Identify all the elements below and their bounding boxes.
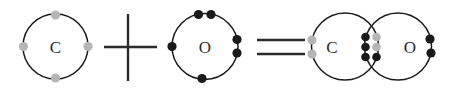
electron-dot <box>307 35 316 44</box>
electron-dot <box>83 42 92 51</box>
lewis-structure-diagram: C O <box>0 0 460 92</box>
electron-dot <box>232 35 241 44</box>
electron-dot <box>206 10 215 19</box>
product-carbon-label: C <box>326 38 337 57</box>
carbon-reactant-group: C <box>19 10 93 82</box>
electron-dot <box>307 49 316 58</box>
shared-electron-dot <box>372 43 381 52</box>
electron-dot <box>232 48 241 57</box>
electron-dot <box>425 34 434 43</box>
electron-dot <box>51 10 60 19</box>
shared-electron-dot <box>372 33 381 42</box>
shared-electron-dot <box>372 53 381 62</box>
electron-dot <box>194 10 203 19</box>
electron-dot <box>51 73 60 82</box>
plus-sign <box>104 14 157 81</box>
oxygen-reactant-group: O <box>167 10 241 83</box>
electron-dot <box>426 48 435 57</box>
carbon-reactant-label: C <box>50 38 61 57</box>
carbon-monoxide-product-group: C O <box>307 13 435 80</box>
product-oxygen-label: O <box>404 38 416 57</box>
electron-dot <box>197 74 206 83</box>
electron-dot <box>167 42 176 51</box>
electron-dot <box>19 42 28 51</box>
shared-electron-dot <box>361 33 370 42</box>
equals-sign <box>257 40 305 54</box>
shared-electron-dot <box>361 53 370 62</box>
oxygen-reactant-label: O <box>199 38 211 57</box>
product-oxygen-lone-electrons <box>425 34 435 57</box>
lewis-diagram-canvas: C O <box>0 0 460 92</box>
triple-bond-shared-electrons <box>361 33 381 62</box>
shared-electron-dot <box>361 43 370 52</box>
